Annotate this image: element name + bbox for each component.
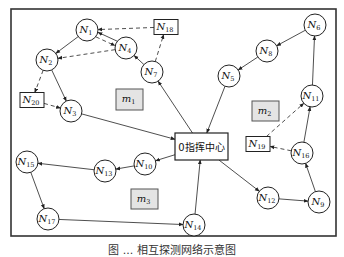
node-n18: N18: [154, 20, 178, 35]
edge-0-to-n12: [219, 160, 259, 191]
edge-n17-to-n14: [59, 219, 183, 224]
edge-n15-to-n17: [31, 172, 44, 208]
region-m3: m3: [131, 189, 158, 209]
command-center: 0指挥中心: [175, 133, 228, 160]
node-n6: N6: [304, 14, 326, 36]
node-n3: N3: [60, 100, 82, 122]
node-n8: N8: [256, 40, 278, 62]
node-n20: N20: [20, 93, 44, 108]
nodes-layer: N1N2N3N4N5N6N7N8N9N10N11N12N13N14N15N16N…: [16, 14, 330, 236]
edge-n8-to-n5: [238, 57, 258, 70]
edge-n1-to-n4: [96, 37, 115, 46]
command-center-label: 0指挥中心: [178, 141, 224, 153]
node-n17: N17: [37, 208, 59, 230]
edge-n5-to-0: [207, 86, 225, 133]
node-n9: N9: [308, 191, 330, 213]
node-n19: N19: [246, 137, 270, 152]
edge-n11-to-n6: [312, 36, 314, 85]
node-n11: N11: [301, 85, 323, 107]
edge-0-to-n10: [156, 155, 175, 161]
edge-n4-to-n2: [58, 50, 115, 59]
figure-caption: 图 ... 相互探测网络示意图: [0, 241, 344, 257]
edge-n10-to-n13: [116, 166, 134, 169]
node-n1: N1: [76, 19, 98, 41]
edge-n13-to-n15: [38, 163, 94, 169]
edge-n20-to-n3: [44, 103, 60, 108]
edge-n3-to-0: [82, 114, 175, 139]
edge-n7-to-n18: [155, 35, 163, 62]
edge-n2-to-n20: [35, 70, 43, 92]
node-n12: N12: [257, 187, 279, 209]
edge-n14-to-0: [195, 160, 200, 214]
node-n7: N7: [141, 61, 163, 83]
diagram-frame: [11, 9, 336, 236]
edge-n4-to-n1: [98, 32, 117, 41]
node-n2: N2: [36, 49, 58, 71]
region-m2: m2: [252, 101, 279, 121]
edge-n16-to-n11: [304, 107, 310, 142]
edge-n12-to-n9: [279, 199, 308, 201]
edge-n1-to-n2: [56, 37, 78, 54]
node-n4: N4: [115, 37, 137, 59]
node-n15: N15: [16, 151, 38, 173]
node-n14: N14: [183, 214, 205, 236]
node-n10: N10: [134, 153, 156, 175]
edge-n2-to-n3: [52, 70, 67, 101]
node-n16: N16: [291, 142, 313, 164]
edge-0-to-n7: [158, 81, 192, 133]
edge-n9-to-n16: [306, 163, 316, 191]
node-n13: N13: [94, 160, 116, 182]
region-m1: m1: [116, 89, 143, 110]
edge-n18-to-n1: [98, 27, 154, 29]
edge-n6-to-n8: [277, 30, 306, 46]
edge-n16-to-n19: [270, 146, 291, 150]
node-n5: N5: [218, 65, 240, 87]
edge-n7-to-n4: [134, 55, 144, 64]
